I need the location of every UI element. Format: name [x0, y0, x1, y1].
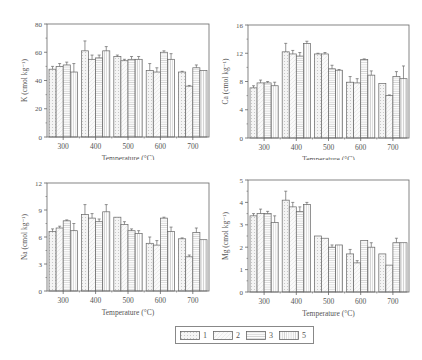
mg-chart: 012345300400500600700Temperature (°C)Mg …	[211, 165, 422, 329]
bar	[103, 51, 110, 137]
bar	[329, 69, 336, 138]
bar	[336, 70, 343, 138]
na-chart-svg: 036912300400500600700Temperature (°C)Na …	[0, 165, 211, 325]
bar	[400, 243, 407, 292]
na-chart: 036912300400500600700Temperature (°C)Na …	[0, 165, 211, 329]
bar	[153, 245, 160, 291]
y-tick-label: 80	[35, 21, 43, 29]
bar	[282, 200, 289, 292]
x-tick-label: 500	[122, 296, 134, 305]
bar	[257, 83, 264, 138]
bar	[128, 231, 135, 291]
y-tick-label: 4	[240, 199, 244, 207]
bar	[63, 221, 70, 291]
x-tick-label: 300	[58, 142, 70, 151]
legend-item-3: 3	[246, 331, 276, 340]
bar	[336, 245, 343, 292]
bar	[264, 83, 271, 138]
bar	[314, 54, 321, 138]
ca-chart-svg: 0481216300400500600700Temperature (°C)Ca…	[211, 0, 422, 160]
bar	[160, 52, 167, 137]
bar	[314, 236, 321, 292]
bar	[303, 43, 310, 138]
y-tick-label: 2	[240, 244, 244, 252]
bar	[103, 212, 110, 291]
ca-chart: 0481216300400500600700Temperature (°C)Ca…	[211, 0, 422, 164]
bar	[153, 72, 160, 137]
legend-label: 2	[236, 331, 240, 340]
x-tick-label: 500	[323, 297, 335, 306]
bar	[347, 82, 354, 138]
bar	[114, 56, 121, 137]
bar	[135, 233, 142, 291]
bar	[186, 86, 193, 137]
bar	[271, 223, 278, 292]
x-tick-label: 300	[258, 297, 270, 306]
bar	[96, 222, 103, 291]
bar	[400, 79, 407, 138]
bar	[70, 231, 77, 291]
x-tick-label: 500	[122, 142, 134, 151]
bar	[368, 75, 375, 138]
bar	[146, 71, 153, 137]
bar	[89, 218, 96, 291]
bar	[168, 59, 175, 137]
bar	[296, 211, 303, 292]
bar	[179, 72, 186, 137]
bar	[186, 257, 193, 291]
y-tick-label: 1	[240, 266, 244, 274]
y-tick-label: 16	[236, 22, 244, 30]
y-tick-label: 9	[39, 207, 43, 215]
y-tick-label: 60	[35, 49, 43, 57]
legend-swatch-light	[213, 331, 233, 340]
x-axis-title: Temperature (°C)	[102, 154, 155, 160]
bar	[56, 66, 63, 137]
x-tick-label: 700	[387, 143, 399, 152]
bar	[386, 96, 393, 138]
x-tick-label: 600	[155, 296, 167, 305]
bar	[89, 59, 96, 137]
bar	[81, 215, 88, 292]
bar	[393, 243, 400, 292]
bar	[200, 71, 207, 137]
y-tick-label: 4	[240, 106, 244, 114]
bar	[354, 263, 361, 292]
x-axis-title: Temperature (°C)	[102, 308, 155, 317]
y-tick-label: 12	[236, 50, 244, 58]
bar	[264, 214, 271, 292]
bar	[289, 54, 296, 138]
bar	[379, 254, 386, 292]
y-tick-label: 8	[240, 78, 244, 86]
legend-item-1: 1	[180, 331, 210, 340]
bar	[193, 68, 200, 137]
bar	[379, 84, 386, 138]
bar	[321, 238, 328, 292]
bar	[271, 86, 278, 138]
x-axis-title: Temperature (°C)	[302, 309, 355, 318]
bar	[329, 247, 336, 292]
x-tick-label: 400	[291, 297, 303, 306]
x-tick-label: 700	[387, 297, 399, 306]
legend-label: 1	[203, 331, 207, 340]
x-tick-label: 600	[355, 143, 367, 152]
bar	[361, 60, 368, 138]
mg-chart-svg: 012345300400500600700Temperature (°C)Mg …	[211, 165, 422, 325]
y-tick-label: 40	[35, 77, 43, 85]
y-tick-label: 3	[240, 221, 244, 229]
x-tick-label: 400	[90, 142, 102, 151]
x-tick-label: 600	[155, 142, 167, 151]
bar	[135, 59, 142, 137]
x-tick-label: 400	[90, 296, 102, 305]
y-axis-title: K (cmol kg⁻¹)	[20, 59, 29, 102]
y-tick-label: 0	[240, 289, 244, 297]
bar	[49, 232, 56, 291]
y-axis-title: Ca (cmol kg⁻¹)	[221, 58, 230, 104]
bar	[200, 240, 207, 291]
bar	[56, 228, 63, 291]
bar	[347, 254, 354, 292]
x-axis-title: Temperature (°C)	[302, 155, 355, 160]
legend-item-5: 5	[279, 331, 309, 340]
y-tick-label: 0	[39, 134, 43, 142]
x-tick-label: 700	[187, 142, 199, 151]
chart-legend: 1 2 3 5	[175, 326, 314, 344]
